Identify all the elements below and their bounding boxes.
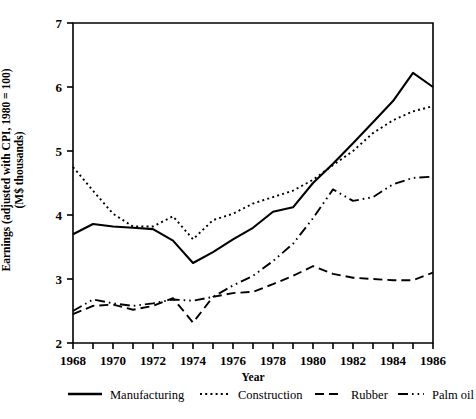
series-line-manufacturing	[73, 73, 433, 263]
y-tick-label-3: 3	[56, 272, 63, 287]
y-tick-label-4: 4	[56, 208, 63, 223]
x-tick-label-1974: 1974	[180, 353, 207, 368]
legend-label-palm-oil: Palm oil	[432, 388, 475, 402]
x-tick-label-1980: 1980	[300, 353, 326, 368]
y-tick-label-2: 2	[56, 336, 63, 351]
x-tick-label-1970: 1970	[100, 353, 126, 368]
legend-item-manufacturing: Manufacturing	[68, 388, 185, 402]
x-axis-title: Year	[242, 371, 265, 383]
x-tick-label-1982: 1982	[340, 353, 366, 368]
x-tick-label-1984: 1984	[380, 353, 407, 368]
x-tick-label-1976: 1976	[220, 353, 247, 368]
x-tick-label-1968: 1968	[60, 353, 87, 368]
legend-label-rubber: Rubber	[351, 388, 389, 402]
legend-item-palm-oil: Palm oil	[398, 388, 475, 402]
legend-item-construction: Construction	[200, 388, 303, 402]
x-tick-label-1972: 1972	[140, 353, 166, 368]
y-tick-label-7: 7	[56, 16, 63, 31]
x-tick-label-1978: 1978	[260, 353, 287, 368]
y-tick-label-6: 6	[56, 80, 63, 95]
y-tick-label-5: 5	[56, 144, 63, 159]
legend-label-manufacturing: Manufacturing	[110, 388, 185, 402]
plot-frame	[73, 23, 433, 343]
line-chart-plot: 2345671968197019721974197619781980198219…	[0, 0, 476, 419]
x-tick-label-1986: 1986	[420, 353, 447, 368]
legend-item-rubber: Rubber	[315, 388, 389, 402]
chart-container: Earnings (adjusted with CPI, 1980 = 100)…	[0, 0, 476, 419]
series-line-construction	[73, 106, 433, 239]
legend-label-construction: Construction	[238, 388, 303, 402]
series-line-palm-oil	[73, 177, 433, 311]
